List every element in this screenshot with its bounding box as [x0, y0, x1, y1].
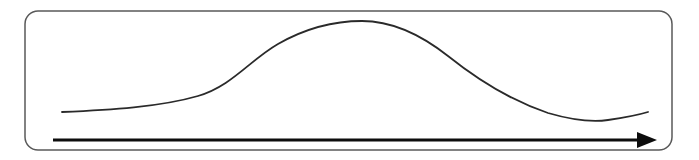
axis-arrow-head-icon: [637, 132, 657, 148]
bell-curve-line: [62, 21, 648, 121]
figure-container: [0, 0, 699, 160]
rounded-rectangle-border: [25, 11, 672, 150]
bell-curve-diagram: [0, 0, 699, 160]
